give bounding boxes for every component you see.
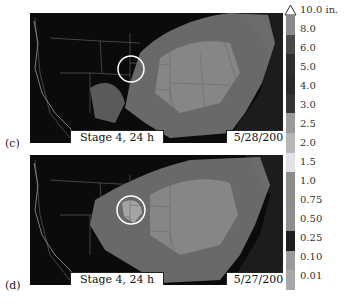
colorbar-segment [286, 153, 295, 173]
product-label: Stage 4, 24 h [70, 130, 164, 143]
colorbar-segment [286, 15, 295, 35]
panel-letter-d: (d) [5, 279, 21, 292]
precip-map-d [30, 155, 283, 285]
colorbar-label: 1.0 [300, 176, 316, 186]
colorbar-label: 2.5 [300, 119, 316, 129]
colorbar-segment [286, 54, 295, 74]
colorbar-label: 0.75 [300, 195, 322, 205]
colorbar-segment [286, 211, 295, 231]
colorbar-segment [286, 94, 295, 114]
colorbar-segment [286, 192, 295, 212]
colorbar-segment [286, 172, 295, 192]
colorbar-segment [286, 74, 295, 94]
colorbar-segment [286, 35, 295, 55]
colorbar-segment [286, 231, 295, 251]
colorbar-label: 0.25 [300, 233, 322, 243]
colorbar-label: 1.5 [300, 157, 316, 167]
panel-letter-c: (c) [5, 137, 20, 150]
colorbar-segment [286, 270, 295, 290]
product-label: Stage 4, 24 h [70, 272, 164, 285]
colorbar-label: 0.50 [300, 214, 322, 224]
colorbar-label: 3.0 [300, 100, 316, 110]
map-panel-c: Stage 4, 24 h 5/28/2009 [30, 13, 283, 143]
date-label: 5/28/2009 [226, 130, 283, 143]
colorbar-segment [286, 113, 295, 133]
date-label: 5/27/2009 [226, 272, 283, 285]
colorbar-segment [286, 133, 295, 153]
colorbar-label: 0.10 [300, 252, 322, 262]
colorbar-label: 10.0 in. [300, 5, 338, 15]
colorbar-label: 4.0 [300, 81, 316, 91]
colorbar-label: 0.01 [300, 271, 322, 281]
map-panel-d: Stage 4, 24 h 5/27/2009 [30, 155, 283, 285]
precip-map-c [30, 13, 283, 143]
colorbar-label: 8.0 [300, 24, 316, 34]
colorbar-label: 2.0 [300, 138, 316, 148]
colorbar-label: 5.0 [300, 62, 316, 72]
colorbar-label: 6.0 [300, 43, 316, 53]
colorbar-segment [286, 251, 295, 271]
